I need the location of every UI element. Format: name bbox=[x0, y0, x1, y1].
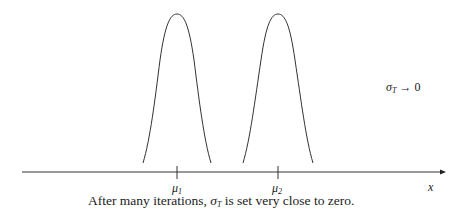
caption: After many iterations, σT is set very cl… bbox=[88, 193, 354, 209]
axis-label-x: x bbox=[428, 180, 433, 195]
diagram-canvas bbox=[0, 0, 459, 216]
sigma-annotation: σT → 0 bbox=[386, 80, 420, 95]
x-axis-arrowhead bbox=[440, 170, 446, 175]
gaussian-curve-1 bbox=[143, 14, 211, 163]
gaussian-curve-2 bbox=[243, 14, 313, 163]
